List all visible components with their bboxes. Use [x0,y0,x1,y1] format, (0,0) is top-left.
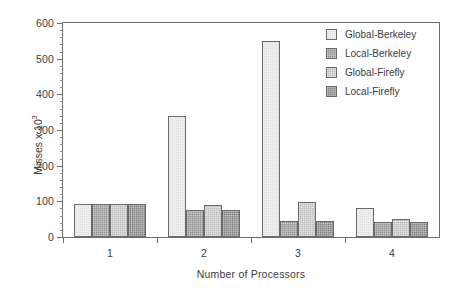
bar [92,204,110,237]
legend-label: Local-Berkeley [345,48,411,59]
x-axis-tick-label: 4 [389,247,395,259]
x-axis-tick [345,237,346,243]
bar [110,204,128,237]
bar [204,205,222,237]
x-axis-tick-label: 3 [295,247,301,259]
bar [356,208,374,237]
y-axis-title-exponent: 3 [31,115,38,119]
y-axis-tick [57,59,63,60]
y-axis-tick-label: 100 [36,195,54,207]
bar-chart-figure: Misses x 103 01002003004005006001234 Num… [0,0,463,290]
bar [280,221,298,237]
y-axis-minor-tick [60,208,63,209]
y-axis-minor-tick [60,37,63,38]
bar [262,41,280,237]
y-axis-minor-tick [60,173,63,174]
y-axis-minor-tick [60,187,63,188]
legend-label: Local-Firefly [345,86,399,97]
y-axis-tick-label: 600 [36,17,54,29]
x-axis-tick-label: 1 [107,247,113,259]
y-axis-minor-tick [60,66,63,67]
y-axis-minor-tick [60,194,63,195]
y-axis-tick-label: 300 [36,124,54,136]
chart-legend: Global-Berkeley Local-Berkeley Global-Fi… [326,26,434,102]
y-axis-minor-tick [60,101,63,102]
y-axis-tick [57,94,63,95]
x-axis-tick [63,237,64,243]
legend-swatch-global-berkeley [326,29,337,40]
legend-item: Local-Firefly [326,83,434,100]
y-axis-tick-label: 200 [36,160,54,172]
legend-swatch-global-firefly [326,67,337,78]
bar [222,210,240,237]
y-axis-tick [57,166,63,167]
legend-label: Global-Berkeley [345,29,416,40]
y-axis-tick-label: 400 [36,88,54,100]
y-axis-tick [57,23,63,24]
legend-item: Local-Berkeley [326,45,434,62]
y-axis-minor-tick [60,109,63,110]
y-axis-minor-tick [60,73,63,74]
y-axis-minor-tick [60,137,63,138]
bar [186,210,204,237]
bar [74,204,92,237]
bar [392,219,410,237]
y-axis-tick-label: 500 [36,53,54,65]
y-axis-minor-tick [60,216,63,217]
bar [374,222,392,237]
y-axis-minor-tick [60,80,63,81]
x-axis-title: Number of Processors [62,268,440,280]
bar [410,222,428,237]
x-axis-tick-label: 2 [201,247,207,259]
legend-item: Global-Firefly [326,64,434,81]
x-axis-tick [251,237,252,243]
y-axis-minor-tick [60,144,63,145]
y-axis-minor-tick [60,87,63,88]
y-axis-tick [57,201,63,202]
y-axis-minor-tick [60,123,63,124]
y-axis-minor-tick [60,44,63,45]
y-axis-tick-label: 0 [48,231,54,243]
y-axis-minor-tick [60,30,63,31]
legend-label: Global-Firefly [345,67,404,78]
bar [298,202,316,237]
legend-item: Global-Berkeley [326,26,434,43]
y-axis-minor-tick [60,52,63,53]
y-axis-minor-tick [60,230,63,231]
x-axis-tick [157,237,158,243]
bar [316,221,334,237]
y-axis-tick [57,130,63,131]
bar [168,116,186,237]
y-axis-minor-tick [60,180,63,181]
y-axis-minor-tick [60,116,63,117]
legend-swatch-local-berkeley [326,48,337,59]
y-axis-minor-tick [60,159,63,160]
bar [128,204,146,237]
y-axis-minor-tick [60,223,63,224]
legend-swatch-local-firefly [326,86,337,97]
y-axis-minor-tick [60,151,63,152]
